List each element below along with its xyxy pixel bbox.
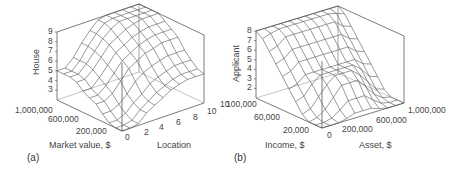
z-tick: 6 (247, 45, 252, 54)
x-tick-b-0: 100,000 (226, 100, 257, 109)
z-tick: 6 (48, 56, 53, 65)
surface-plot-a (0, 0, 230, 170)
z-tick: 7 (48, 46, 53, 55)
panel-label-a: (a) (27, 152, 39, 163)
y-tick-a-1: 2 (144, 128, 149, 137)
z-tick: 4 (48, 76, 53, 85)
x-tick-b-1: 60,000 (254, 113, 280, 122)
z-tick: 8 (48, 37, 53, 46)
z-tick: 5 (48, 66, 53, 75)
y-tick-b-1: 200,000 (342, 125, 373, 134)
x-tick-b-2: 20,000 (283, 126, 309, 135)
y-tick-b-3: 1,000,000 (408, 106, 446, 115)
z-axis-label-a: House (32, 49, 41, 75)
z-axis-label-b: Applicant (232, 45, 241, 82)
y-tick-b-2: 600,000 (376, 116, 407, 125)
x-tick-a-2: 200,000 (76, 127, 107, 136)
x-tick-a-1: 600,000 (48, 115, 79, 124)
chart-panel-b: Applicant 2345678 100,000 60,000 20,000 … (230, 0, 463, 170)
y-axis-label-a: Location (157, 141, 191, 150)
y-tick-a-4: 8 (193, 113, 198, 122)
z-tick: 3 (247, 74, 252, 83)
panel-label-b: (b) (234, 152, 246, 163)
y-tick-a-2: 4 (159, 123, 164, 132)
z-tick: 3 (48, 85, 53, 94)
x-axis-label-a: Market value, $ (49, 141, 111, 150)
x-axis-label-b: Income, $ (265, 141, 305, 150)
y-tick-a-0: 0 (125, 133, 130, 142)
y-axis-label-b: Asset, $ (359, 141, 392, 150)
chart-panel-a: House 3456789 1,000,000 600,000 200,000 … (0, 0, 230, 170)
z-tick: 2 (247, 83, 252, 92)
z-tick: 7 (247, 36, 252, 45)
z-tick: 5 (247, 55, 252, 64)
y-tick-a-5: 10 (207, 107, 216, 116)
y-tick-a-3: 6 (176, 118, 181, 127)
z-tick: 9 (48, 27, 53, 36)
z-tick: 8 (247, 26, 252, 35)
y-tick-b-0: 0 (327, 131, 332, 140)
z-tick: 4 (247, 64, 252, 73)
